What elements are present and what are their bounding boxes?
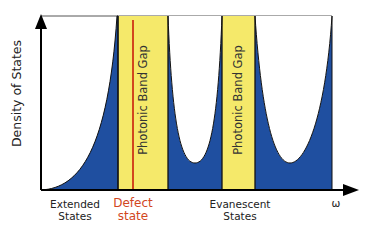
defect-state-label: Defect state [108, 197, 158, 223]
evanescent-line-2: States [205, 210, 275, 222]
defect-line-2: state [108, 210, 158, 223]
extended-states-label: Extended States [45, 198, 105, 222]
extended-line-2: States [45, 210, 105, 222]
evanescent-line-1: Evanescent [205, 198, 275, 210]
density-of-states-diagram [0, 0, 374, 227]
x-axis-arrow-icon [343, 184, 359, 196]
extended-line-1: Extended [45, 198, 105, 210]
band-1 [41, 16, 118, 190]
x-axis-label: ω [326, 197, 346, 209]
y-axis-label: Density of States [9, 34, 24, 154]
gap-2-label: Photonic Band Gap [231, 35, 245, 165]
gap-1-label: Photonic Band Gap [136, 35, 150, 165]
evanescent-states-label: Evanescent States [205, 198, 275, 222]
